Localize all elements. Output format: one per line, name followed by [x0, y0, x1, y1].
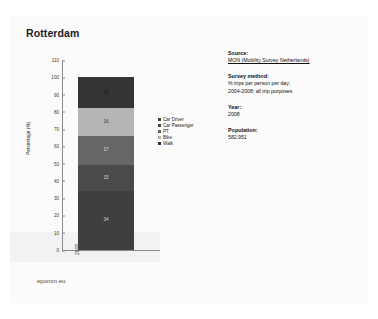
legend-item-car-passenger[interactable]: Car Passenger: [158, 123, 194, 129]
population-value: 582.951: [228, 134, 364, 142]
source-value[interactable]: MON (Mobility Survey Netherlands): [228, 57, 364, 65]
legend-swatch-icon: [158, 124, 161, 127]
y-tick-90: 90: [54, 92, 62, 97]
legend-item-bike[interactable]: Bike: [158, 135, 194, 141]
survey-method-line-2: 2004-2008; all trip purposes: [228, 88, 364, 96]
y-tick-30: 30: [54, 196, 62, 201]
slide-canvas: Rotterdam Percentage (%) 010203040506070…: [0, 0, 378, 319]
legend-label: Bike: [163, 135, 172, 140]
source-block: Source: MON (Mobility Survey Netherlands…: [228, 49, 364, 65]
population-heading: Population:: [228, 126, 364, 134]
y-tick-0: 0: [56, 248, 62, 253]
legend-swatch-icon: [158, 142, 161, 145]
population-block: Population: 582.951: [228, 126, 364, 142]
year-block: Year: 2008: [228, 103, 364, 119]
bar-segment-bike[interactable]: 16: [78, 108, 134, 136]
y-tick-70: 70: [54, 127, 62, 132]
legend-item-car-driver[interactable]: Car Driver: [158, 117, 194, 123]
survey-method-line-1: % trips per person per day;: [228, 80, 364, 88]
footer-brand: epomm.eu: [37, 278, 65, 284]
y-tick-100: 100: [51, 75, 62, 80]
stacked-bar-chart: Percentage (%) 0102030405060708090100110…: [30, 55, 160, 260]
legend-label: Car Passenger: [163, 123, 194, 128]
legend-swatch-icon: [158, 130, 161, 133]
y-tick-20: 20: [54, 213, 62, 218]
legend-swatch-icon: [158, 136, 161, 139]
y-axis-label: Percentage (%): [26, 122, 31, 155]
bar-segment-value: 34: [103, 218, 108, 223]
y-tick-50: 50: [54, 161, 62, 166]
y-tick-110: 110: [52, 58, 62, 63]
bar-segment-walk[interactable]: 18: [78, 77, 134, 108]
source-heading: Source:: [228, 49, 364, 57]
bar-2008[interactable]: 1816171534: [78, 77, 134, 250]
chart-legend: Car DriverCar PassengerPTBikeWalk: [158, 117, 194, 147]
x-axis-tick-2008: 2008: [74, 244, 80, 255]
legend-label: Car Driver: [163, 117, 184, 122]
legend-label: Walk: [163, 141, 173, 146]
info-panel: Source: MON (Mobility Survey Netherlands…: [228, 49, 364, 148]
bar-segment-car-driver[interactable]: 34: [78, 191, 134, 250]
legend-item-walk[interactable]: Walk: [158, 141, 194, 147]
y-tick-80: 80: [54, 109, 62, 114]
bar-segment-value: 16: [103, 120, 108, 125]
year-heading: Year:: [228, 103, 364, 111]
legend-item-pt[interactable]: PT: [158, 129, 194, 135]
y-tick-60: 60: [54, 144, 62, 149]
bar-segment-car-passenger[interactable]: 15: [78, 165, 134, 191]
y-tick-10: 10: [54, 230, 62, 235]
legend-swatch-icon: [158, 118, 161, 121]
legend-label: PT: [163, 129, 169, 134]
bar-segment-value: 15: [103, 176, 108, 181]
bar-segment-pt[interactable]: 17: [78, 136, 134, 165]
survey-method-block: Survey method: % trips per person per da…: [228, 72, 364, 96]
bar-segment-value: 18: [103, 91, 108, 96]
bar-segment-value: 17: [103, 148, 108, 153]
page-title: Rotterdam: [26, 27, 79, 39]
survey-method-heading: Survey method:: [228, 72, 364, 80]
y-tick-40: 40: [54, 178, 62, 183]
plot-area: 0102030405060708090100110 1816171534: [62, 60, 154, 250]
year-value: 2008: [228, 111, 364, 119]
